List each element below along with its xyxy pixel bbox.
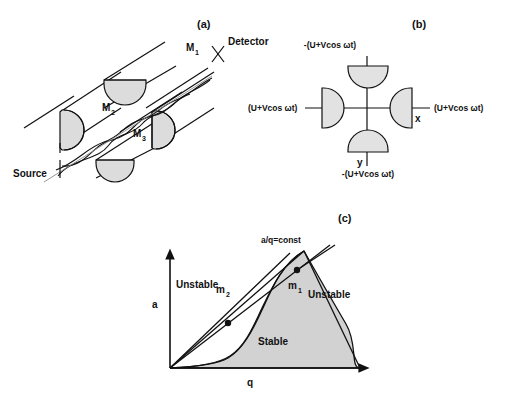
label-m3-text: M (133, 128, 141, 139)
label-m1: M 1 (186, 42, 199, 56)
c-label-m1-sub: 1 (298, 287, 302, 294)
label-m3: M 3 (133, 128, 146, 142)
c-xaxis-title: q (247, 377, 253, 388)
label-m1-sub: 1 (195, 49, 199, 56)
electrode-left (322, 88, 344, 128)
c-label-m1-text: m (288, 280, 297, 291)
voltage-label-left: (U+Vcos ωt) (248, 103, 298, 113)
scan-line-label: a/q=const (261, 235, 301, 245)
figure-svg: (a) (0, 0, 510, 396)
c-label-m2: m 2 (216, 284, 230, 298)
panel-b-label: (b) (412, 18, 426, 30)
figure-container: (a) (0, 0, 510, 396)
electrode-bottom (348, 130, 388, 152)
panel-c: (c) a/q=const (152, 212, 360, 388)
panel-a-label: (a) (197, 18, 211, 30)
electrode-right (390, 88, 412, 128)
source-label: Source (13, 168, 47, 179)
label-m2-text: M (102, 102, 110, 113)
voltage-label-right: (U+Vcos ωt) (434, 103, 484, 113)
label-m2-sub: 2 (111, 109, 115, 116)
label-m2: M 2 (102, 102, 115, 116)
voltage-label-top: -(U+Vcos ωt) (304, 40, 356, 50)
unstable-label-left: Unstable (176, 279, 219, 290)
c-yaxis-title: a (152, 299, 158, 310)
panel-c-label: (c) (338, 212, 352, 224)
c-label-m2-text: m (216, 284, 225, 295)
c-label-m2-sub: 2 (226, 291, 230, 298)
y-axis-label: y (357, 157, 363, 168)
panel-a: (a) (13, 18, 269, 182)
unstable-label-right: Unstable (308, 289, 351, 300)
operating-point-m1 (294, 267, 300, 273)
label-m1-text: M (186, 42, 194, 53)
label-m3-sub: 3 (142, 135, 146, 142)
detector-marker (212, 46, 224, 62)
voltage-label-bottom: -(U+Vcos ωt) (342, 169, 394, 179)
operating-point-m2 (225, 320, 231, 326)
panel-b: (b) -(U+Vcos ωt) -(U+Vcos ωt) (248, 18, 484, 179)
x-axis-label: x (415, 113, 421, 124)
detector-label: Detector (228, 36, 269, 47)
stable-label: Stable (258, 336, 288, 347)
electrode-top (348, 66, 388, 88)
